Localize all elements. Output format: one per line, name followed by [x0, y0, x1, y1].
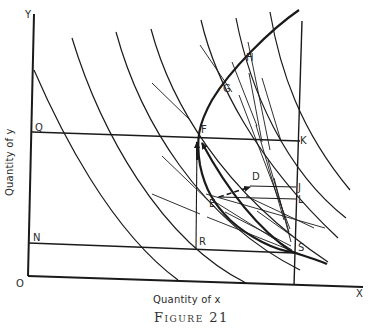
line-E-L	[218, 197, 296, 199]
x-axis-title: Quantity of x	[153, 294, 221, 305]
point-label-G: G	[223, 84, 231, 94]
x-axis-end-label: X	[356, 289, 363, 299]
point-label-L: L	[298, 195, 304, 205]
indifference-curve-3	[116, 32, 300, 270]
figure-caption: Figure 21	[154, 310, 229, 325]
point-label-Q: Q	[35, 123, 43, 133]
point-label-K: K	[300, 136, 307, 146]
point-label-S: S	[298, 243, 304, 253]
point-label-H: H	[246, 53, 254, 63]
indifference-curve-7	[270, 12, 350, 190]
tangent-lines	[152, 42, 325, 256]
point-label-E: E	[209, 199, 215, 209]
point-label-N: N	[33, 233, 40, 243]
indifference-curve-5	[201, 20, 338, 238]
point-label-D: D	[252, 172, 260, 182]
diagram-canvas	[0, 0, 376, 331]
point-label-J: J	[298, 183, 301, 193]
line-N-S	[29, 243, 294, 253]
origin-label: O	[16, 279, 24, 289]
point-label-R: R	[199, 237, 206, 247]
x-axis	[28, 276, 363, 287]
y-axis-title: Quantity of y	[4, 128, 15, 196]
thick-curves	[198, 10, 327, 264]
point-label-F: F	[201, 125, 207, 135]
figure-21-diagram: Y O X Q N F G H K D J L E R S Quantity o…	[0, 0, 376, 331]
y-axis-end-label: Y	[25, 10, 31, 20]
